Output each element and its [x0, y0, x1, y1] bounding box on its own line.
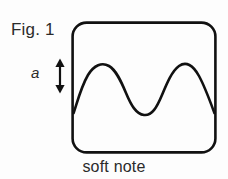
figure-number-label: Fig. 1 — [11, 20, 55, 39]
sine-waveform-path — [74, 64, 215, 115]
waveform-frame — [71, 21, 217, 154]
figure-caption: soft note — [0, 157, 228, 176]
amplitude-symbol-label: a — [31, 64, 39, 81]
rounded-rectangle-border — [73, 23, 216, 153]
figure-container: Fig. 1 a soft note — [0, 0, 228, 179]
amplitude-arrow-icon — [50, 58, 70, 94]
